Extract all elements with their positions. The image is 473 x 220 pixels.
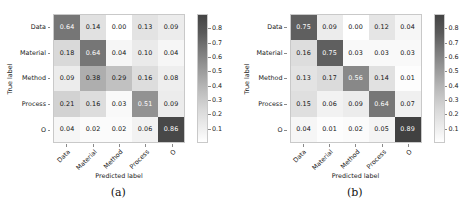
heatmap-cell: 0.38 xyxy=(80,66,106,91)
y-tick-label: O xyxy=(0,117,50,143)
y-tick-label: Method xyxy=(237,66,287,92)
heatmap-cell: 0.08 xyxy=(158,66,184,91)
heatmap-cell: 0.04 xyxy=(291,117,317,142)
x-tick-slot: Process xyxy=(132,144,158,174)
heatmap-cell: 0.56 xyxy=(343,66,369,91)
heatmap-cell: 0.09 xyxy=(54,66,80,91)
heatmap-grid: 0.750.090.000.120.040.160.750.030.030.03… xyxy=(291,15,421,142)
colorbar-tick-label: 0.7 xyxy=(208,39,222,47)
x-tick-label: Data xyxy=(55,148,71,164)
heatmap-cell: 0.04 xyxy=(395,15,421,40)
heatmap-cell: 0.03 xyxy=(106,91,132,116)
heatmap-grid: 0.640.140.000.130.090.180.640.040.100.04… xyxy=(54,15,184,142)
heatmap-cell: 0.64 xyxy=(369,91,395,116)
colorbar-tick-label: 0.3 xyxy=(208,96,222,104)
x-tick-labels: DataMaterialMethodProcessO xyxy=(53,144,185,174)
y-tick-label: Method xyxy=(0,66,50,92)
heatmap-cell: 0.09 xyxy=(158,91,184,116)
heatmap-cell: 0.15 xyxy=(291,91,317,116)
heatmap-cell: 0.89 xyxy=(395,117,421,142)
colorbar-ticks: 0.80.70.60.50.40.30.20.1 xyxy=(445,14,473,143)
colorbar-tick-label: 0.1 xyxy=(445,125,459,133)
heatmap-cell: 0.13 xyxy=(291,66,317,91)
y-tick-label: Material xyxy=(237,40,287,66)
heatmap-cell: 0.01 xyxy=(317,117,343,142)
x-tick-label: Data xyxy=(292,148,308,164)
y-tick-label: Data xyxy=(0,14,50,40)
colorbar-tick-label: 0.6 xyxy=(208,53,222,61)
heatmap-cell: 0.86 xyxy=(158,117,184,142)
x-tick-slot: Data xyxy=(290,144,316,174)
heatmap-cell: 0.06 xyxy=(132,117,158,142)
x-tick-label: Method xyxy=(339,148,362,171)
y-tick-label: Process xyxy=(237,91,287,117)
heatmap-cell: 0.16 xyxy=(291,40,317,65)
y-tick-label: Material xyxy=(0,40,50,66)
y-tick-label: Data xyxy=(237,14,287,40)
heatmap-cell: 0.64 xyxy=(54,15,80,40)
panel-caption: (b) xyxy=(237,186,473,199)
colorbar-tick-label: 0.1 xyxy=(208,125,222,133)
heatmap-cell: 0.04 xyxy=(54,117,80,142)
heatmap-cell: 0.64 xyxy=(80,40,106,65)
heatmap-cell: 0.03 xyxy=(369,40,395,65)
x-tick-slot: Process xyxy=(369,144,395,174)
x-tick-label: O xyxy=(405,148,414,157)
x-tick-slot: Material xyxy=(79,144,105,174)
x-tick-labels: DataMaterialMethodProcessO xyxy=(290,144,422,174)
y-tick-labels: DataMaterialMethodProcessO xyxy=(0,14,50,143)
heatmap-cell: 0.29 xyxy=(106,66,132,91)
colorbar-tick-label: 0.5 xyxy=(208,67,222,75)
x-axis-title: Predicted label xyxy=(290,172,422,180)
x-tick-slot: Material xyxy=(316,144,342,174)
heatmap-cell: 0.06 xyxy=(317,91,343,116)
heatmap-cell: 0.07 xyxy=(395,91,421,116)
colorbar-tick-label: 0.2 xyxy=(208,110,222,118)
heatmap-cell: 0.17 xyxy=(317,66,343,91)
colorbar-tick-label: 0.7 xyxy=(445,39,459,47)
colorbar-tick-label: 0.5 xyxy=(445,67,459,75)
heatmap-cell: 0.09 xyxy=(158,15,184,40)
x-tick-label: Process xyxy=(365,148,388,171)
x-tick-label: Method xyxy=(102,148,125,171)
colorbar-tick-label: 0.3 xyxy=(445,96,459,104)
panel-caption: (a) xyxy=(0,186,237,199)
heatmap-axes: 0.750.090.000.120.040.160.750.030.030.03… xyxy=(290,14,422,143)
heatmap-cell: 0.03 xyxy=(395,40,421,65)
heatmap-cell: 0.51 xyxy=(132,91,158,116)
x-tick-slot: Method xyxy=(106,144,132,174)
heatmap-cell: 0.75 xyxy=(317,40,343,65)
heatmap-cell: 0.02 xyxy=(343,117,369,142)
x-tick-label: Process xyxy=(128,148,151,171)
colorbar-tick-label: 0.4 xyxy=(208,82,222,90)
heatmap-cell: 0.13 xyxy=(132,15,158,40)
heatmap-cell: 0.02 xyxy=(106,117,132,142)
colorbar-tick-label: 0.8 xyxy=(445,24,459,32)
heatmap-cell: 0.16 xyxy=(80,91,106,116)
x-axis-title: Predicted label xyxy=(53,172,185,180)
x-tick-slot: Data xyxy=(53,144,79,174)
heatmap-axes: 0.640.140.000.130.090.180.640.040.100.04… xyxy=(53,14,185,143)
heatmap-cell: 0.04 xyxy=(106,40,132,65)
heatmap-cell: 0.14 xyxy=(80,15,106,40)
heatmap-cell: 0.12 xyxy=(369,15,395,40)
confusion-matrix-figure: True labelDataMaterialMethodProcessO0.64… xyxy=(0,0,473,220)
colorbar-tick-label: 0.8 xyxy=(208,24,222,32)
x-tick-slot: O xyxy=(159,144,185,174)
heatmap-cell: 0.14 xyxy=(369,66,395,91)
colorbar xyxy=(434,14,445,143)
x-tick-slot: Method xyxy=(342,144,368,174)
y-tick-label: Process xyxy=(0,91,50,117)
heatmap-cell: 0.21 xyxy=(54,91,80,116)
y-tick-label: O xyxy=(237,117,287,143)
x-tick-slot: O xyxy=(395,144,421,174)
heatmap-cell: 0.16 xyxy=(132,66,158,91)
heatmap-cell: 0.10 xyxy=(132,40,158,65)
colorbar xyxy=(197,14,208,143)
heatmap-cell: 0.09 xyxy=(343,91,369,116)
colorbar-tick-label: 0.2 xyxy=(445,110,459,118)
colorbar-tick-label: 0.4 xyxy=(445,82,459,90)
x-tick-label: O xyxy=(168,148,177,157)
colorbar-ticks: 0.80.70.60.50.40.30.20.1 xyxy=(208,14,236,143)
panel-a: True labelDataMaterialMethodProcessO0.64… xyxy=(0,0,237,220)
